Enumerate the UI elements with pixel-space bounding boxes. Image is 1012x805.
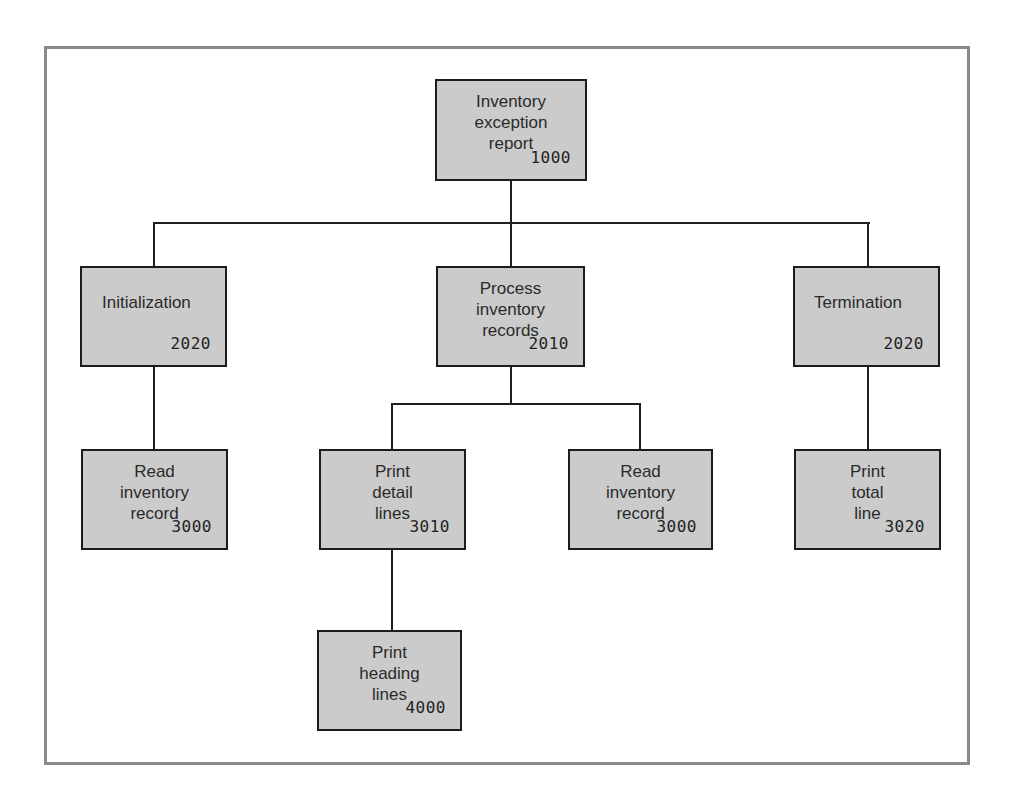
node-label: Initialization bbox=[82, 292, 225, 313]
connector-process-stem bbox=[510, 365, 512, 405]
node-label: Print total line bbox=[796, 461, 939, 524]
node-label: Read inventory record bbox=[570, 461, 711, 524]
connector-print-detail-to-heading bbox=[391, 548, 393, 631]
connector-initialization-to-read bbox=[153, 365, 155, 450]
node-code: 3000 bbox=[171, 517, 212, 536]
node-code: 4000 bbox=[405, 698, 446, 717]
node-inventory-exception-report: Inventory exception report 1000 bbox=[435, 79, 587, 181]
node-print-heading-lines: Print heading lines 4000 bbox=[317, 630, 462, 731]
node-process-inventory-records: Process inventory records 2010 bbox=[436, 266, 585, 367]
connector-to-process bbox=[510, 222, 512, 267]
connector-termination-to-print-total bbox=[867, 365, 869, 450]
node-label: Print detail lines bbox=[321, 461, 464, 524]
node-label: Read inventory record bbox=[83, 461, 226, 524]
node-print-total-line: Print total line 3020 bbox=[794, 449, 941, 550]
connector-to-read-right bbox=[639, 403, 641, 450]
node-termination: Termination 2020 bbox=[793, 266, 940, 367]
node-code: 3010 bbox=[409, 517, 450, 536]
node-code: 3020 bbox=[884, 517, 925, 536]
node-code: 2020 bbox=[170, 334, 211, 353]
connector-to-initialization bbox=[153, 222, 155, 267]
connector-to-print-detail bbox=[391, 403, 393, 450]
node-initialization: Initialization 2020 bbox=[80, 266, 227, 367]
node-label: Print heading lines bbox=[319, 642, 460, 705]
node-code: 2020 bbox=[883, 334, 924, 353]
node-label: Inventory exception report bbox=[437, 91, 585, 154]
connector-level3-bar bbox=[391, 403, 641, 405]
connector-root-stem bbox=[510, 180, 512, 224]
node-label: Termination bbox=[795, 292, 938, 313]
node-print-detail-lines: Print detail lines 3010 bbox=[319, 449, 466, 550]
node-read-inventory-record-left: Read inventory record 3000 bbox=[81, 449, 228, 550]
node-code: 1000 bbox=[530, 148, 571, 167]
node-code: 2010 bbox=[528, 334, 569, 353]
node-read-inventory-record-right: Read inventory record 3000 bbox=[568, 449, 713, 550]
connector-to-termination bbox=[867, 222, 869, 267]
node-code: 3000 bbox=[656, 517, 697, 536]
node-label: Process inventory records bbox=[438, 278, 583, 341]
